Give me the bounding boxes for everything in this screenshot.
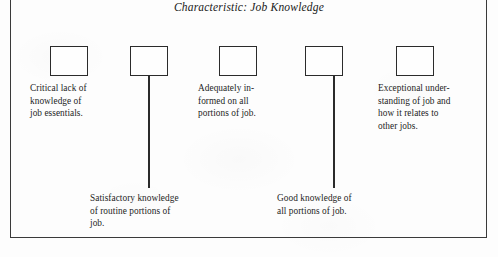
page-rule-left bbox=[10, 0, 11, 238]
rating-box-3[interactable] bbox=[219, 46, 257, 76]
rating-scale-figure: Characteristic: Job Knowledge Critical l… bbox=[0, 0, 498, 257]
caption-box-5: Exceptional under- standing of job and h… bbox=[378, 82, 490, 132]
leader-line-box-2 bbox=[148, 76, 150, 188]
rating-box-5[interactable] bbox=[396, 46, 434, 76]
page-rule-bottom bbox=[10, 237, 487, 238]
caption-box-2: Satisfactory knowledge of routine portio… bbox=[90, 192, 230, 230]
caption-box-1: Critical lack of knowledge of job essent… bbox=[30, 82, 130, 120]
caption-box-3: Adequately in- formed on all portions of… bbox=[198, 82, 303, 120]
rating-box-1[interactable] bbox=[50, 46, 88, 76]
rating-box-2[interactable] bbox=[130, 46, 168, 76]
figure-title: Characteristic: Job Knowledge bbox=[0, 1, 498, 13]
rating-box-4[interactable] bbox=[305, 46, 343, 76]
caption-box-4: Good knowledge of all portions of job. bbox=[277, 192, 407, 217]
leader-line-box-4 bbox=[333, 76, 335, 188]
